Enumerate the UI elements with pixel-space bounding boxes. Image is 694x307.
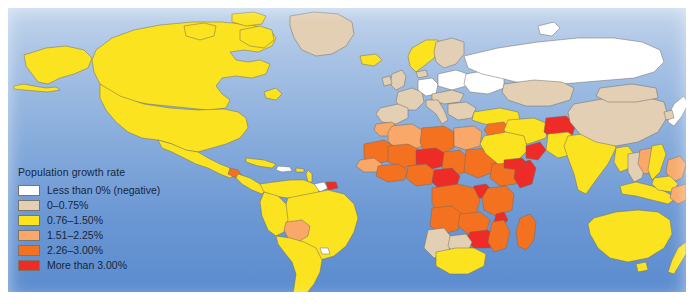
island-cuba bbox=[246, 158, 276, 168]
country-mozambique bbox=[488, 220, 510, 252]
country-oman bbox=[526, 142, 546, 160]
country-australia bbox=[588, 210, 672, 262]
country-spain-portugal bbox=[376, 104, 408, 124]
country-ireland bbox=[382, 76, 392, 86]
country-egypt bbox=[454, 126, 482, 150]
legend-label-151-to-225: 1.51–2.25% bbox=[47, 230, 103, 241]
legend-item-076-to-150: 0.76–1.50% bbox=[18, 213, 160, 227]
region-oceania bbox=[588, 184, 686, 274]
island-newfoundland bbox=[264, 88, 282, 100]
country-iceland bbox=[360, 54, 382, 66]
country-uruguay bbox=[320, 248, 330, 254]
island-tasmania bbox=[636, 262, 648, 272]
country-united-kingdom bbox=[390, 70, 406, 90]
region-south-america bbox=[260, 180, 358, 292]
country-mongolia bbox=[596, 84, 658, 102]
region-asia bbox=[480, 80, 686, 204]
legend-swatch-0-to-075 bbox=[18, 200, 40, 211]
map-page: .neg { fill:#ffffff; } .c0 { fill:#e2cfb… bbox=[0, 0, 694, 307]
country-south-korea bbox=[664, 110, 674, 120]
country-poland-baltics bbox=[438, 70, 468, 90]
island-hispaniola bbox=[276, 166, 292, 172]
legend-swatch-076-to-150 bbox=[18, 215, 40, 226]
country-peru-ecuador bbox=[260, 192, 288, 236]
country-denmark bbox=[416, 70, 428, 78]
map-legend: Population growth rate Less than 0% (neg… bbox=[18, 166, 160, 273]
legend-swatch-negative bbox=[18, 185, 40, 196]
legend-label-226-to-300: 2.26–3.00% bbox=[47, 245, 103, 256]
country-balkans bbox=[448, 102, 476, 120]
legend-label-negative: Less than 0% (negative) bbox=[47, 185, 160, 196]
legend-label-0-to-075: 0–0.75% bbox=[47, 200, 88, 211]
country-south-africa bbox=[436, 248, 486, 274]
country-kazakhstan bbox=[502, 80, 574, 106]
country-madagascar bbox=[516, 214, 536, 250]
island-puerto-rico bbox=[296, 168, 304, 172]
legend-item-151-to-225: 1.51–2.25% bbox=[18, 228, 160, 242]
country-kenya-tanzania bbox=[482, 186, 514, 216]
legend-item-negative: Less than 0% (negative) bbox=[18, 183, 160, 197]
legend-swatch-more-than-300 bbox=[18, 260, 40, 271]
territory-greenland bbox=[290, 12, 354, 56]
island-aleutian-islands bbox=[14, 84, 60, 92]
island-lesser-antilles bbox=[306, 170, 312, 182]
legend-label-more-than-300: More than 3.00% bbox=[47, 260, 127, 271]
legend-swatch-151-to-225 bbox=[18, 230, 40, 241]
country-united-states-alaska bbox=[24, 46, 92, 84]
country-sweden-finland bbox=[434, 38, 464, 68]
legend-item-0-to-075: 0–0.75% bbox=[18, 198, 160, 212]
legend-item-more-than-300: More than 3.00% bbox=[18, 258, 160, 272]
island-novaya-zemlya bbox=[538, 22, 560, 36]
territory-french-guiana bbox=[326, 182, 338, 190]
country-new-zealand bbox=[668, 242, 686, 274]
legend-swatch-226-to-300 bbox=[18, 245, 40, 256]
legend-item-226-to-300: 2.26–3.00% bbox=[18, 243, 160, 257]
legend-label-076-to-150: 0.76–1.50% bbox=[47, 215, 103, 226]
legend-title: Population growth rate bbox=[18, 166, 160, 178]
